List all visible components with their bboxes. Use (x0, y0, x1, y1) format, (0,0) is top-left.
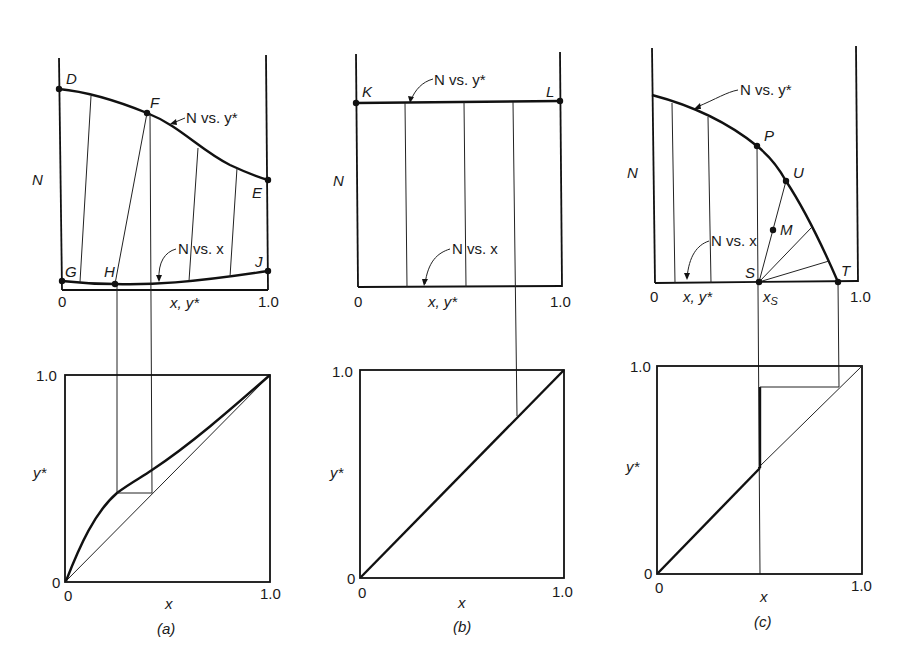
label-t: T (841, 262, 852, 279)
label-l: L (546, 83, 554, 100)
x-axis-label: x, y* (427, 293, 458, 310)
panel-b-top: K L N N vs. y* N vs. x 0 x, y* 1.0 (333, 52, 571, 416)
label-g: G (65, 263, 77, 280)
label-m: M (780, 221, 793, 238)
x-axis-label: x (457, 594, 466, 611)
y-axis-label: y* (32, 464, 48, 481)
label-f: F (150, 94, 160, 111)
curve-label-upper: N vs. y* (434, 71, 486, 88)
projection-line-f (150, 113, 152, 493)
curve-label-upper: N vs. y* (740, 81, 792, 98)
arrow-head (422, 279, 428, 286)
panel-b-bottom: 1.0 0 y* 0 1.0 x (b) (329, 363, 573, 635)
label-p: P (764, 127, 774, 144)
projection-line-ps (757, 146, 760, 574)
curve-n-vs-ystar (356, 101, 560, 103)
x-tick-1: 1.0 (851, 577, 872, 594)
curve-label-lower: N vs. x (178, 240, 224, 257)
point-d (56, 86, 62, 92)
arrow (687, 241, 709, 278)
y-axis-label: y* (329, 464, 345, 481)
x-tick-0: 0 (64, 587, 72, 604)
x-tick-1: 1.0 (552, 583, 573, 600)
label-h: H (104, 263, 115, 280)
point-j (265, 268, 271, 274)
equilibrium-line (361, 370, 564, 577)
y-tick-1: 1.0 (36, 367, 57, 384)
right-axis (856, 46, 858, 282)
label-s: S (745, 264, 755, 281)
y-axis-label: N (627, 164, 638, 181)
x-axis-label: x, y* (682, 288, 713, 305)
label-k: K (362, 83, 373, 100)
y-axis-label: N (32, 171, 43, 188)
y-tick-1: 1.0 (630, 358, 651, 375)
panel-c-top: P U M S T N N vs. y* N vs. x 0 x, y* xS … (627, 46, 871, 574)
point-t (835, 279, 841, 285)
diagonal-line (758, 366, 862, 468)
arrow (697, 90, 738, 107)
arrow (411, 79, 433, 100)
point-k (353, 100, 359, 106)
y-tick-0: 0 (347, 570, 355, 587)
projection-tie-line (513, 102, 517, 416)
x-tick-1: 1.0 (260, 585, 281, 602)
curve-n-vs-x (62, 271, 268, 284)
figure: D F E G H J N N vs. y* N vs. x 0 x, y* 1… (0, 0, 905, 665)
x-tick-1: 1.0 (258, 293, 279, 310)
diagonal-line (66, 375, 270, 581)
x-tick-0: 0 (650, 288, 658, 305)
x-tick-0: 0 (358, 584, 366, 601)
x-axis-label: x (164, 595, 173, 612)
point-l (557, 98, 563, 104)
label-d: D (66, 70, 77, 87)
panel-a-bottom: 1.0 0 y* 0 1.0 x (a) (32, 367, 281, 637)
tie-line (405, 103, 407, 287)
label-j: J (254, 253, 263, 270)
arrow (425, 249, 450, 284)
caption-c: (c) (754, 613, 772, 630)
arrow-head (170, 119, 177, 125)
caption-a: (a) (157, 620, 175, 637)
projection-line-t (838, 282, 839, 387)
x-axis-label: x, y* (169, 294, 200, 311)
y-tick-0: 0 (644, 565, 652, 582)
point-u (783, 178, 789, 184)
x-tick-0: 0 (354, 293, 362, 310)
right-axis (560, 52, 562, 287)
y-tick-1: 1.0 (332, 363, 353, 380)
curve-n-vs-ystar (652, 95, 838, 282)
point-h (112, 281, 118, 287)
tie-line (464, 102, 466, 287)
left-axis (59, 58, 62, 290)
y-axis-label: y* (625, 458, 641, 475)
point-m (770, 227, 776, 233)
point-s (756, 279, 762, 285)
left-axis (356, 54, 358, 287)
tie-line (230, 168, 237, 277)
y-axis-label: N (333, 172, 344, 189)
panel-a-top: D F E G H J N N vs. y* N vs. x 0 x, y* 1… (32, 55, 279, 493)
right-axis (266, 55, 268, 290)
curve-label-upper: N vs. y* (186, 109, 238, 126)
x-axis-label: x (759, 588, 768, 605)
arrow-head (694, 103, 701, 109)
caption-b: (b) (453, 618, 471, 635)
curve-label-lower: N vs. x (452, 240, 498, 257)
xs-label: xS (762, 288, 779, 307)
tie-line (80, 96, 91, 282)
arrow-head (156, 275, 162, 282)
base-axis (358, 286, 562, 287)
label-e: E (252, 184, 263, 201)
label-u: U (793, 164, 804, 181)
point-e (265, 177, 271, 183)
tie-line (189, 148, 198, 281)
tie-line (672, 103, 675, 283)
equilibrium-lower (658, 468, 760, 573)
x-tick-1: 1.0 (850, 288, 871, 305)
left-axis (652, 48, 655, 283)
x-tick-0: 0 (655, 579, 663, 596)
panel-c-bottom: 1.0 0 y* 0 1.0 x (c) (625, 358, 872, 630)
curve-label-lower: N vs. x (711, 232, 757, 249)
point-p (754, 143, 760, 149)
